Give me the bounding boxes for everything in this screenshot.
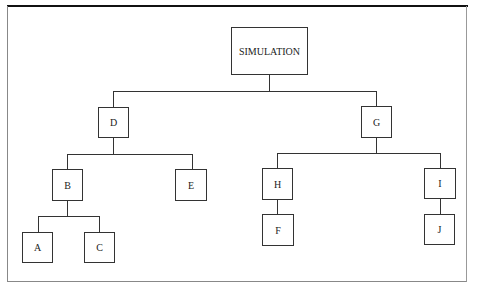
connector-to-a (38, 216, 39, 232)
connector-to-b (67, 154, 68, 169)
connector-to-c (99, 216, 100, 232)
connector-root-bar (113, 91, 377, 92)
node-a: A (22, 232, 53, 263)
connector-g-down (376, 138, 377, 153)
connector-g-bar (277, 153, 441, 154)
connector-h-to-f (277, 200, 278, 214)
connector-to-i (440, 153, 441, 168)
node-g: G (361, 106, 392, 138)
node-j: J (424, 214, 455, 245)
node-i: I (424, 168, 456, 199)
connector-to-h (277, 153, 278, 168)
connector-to-d (113, 91, 114, 107)
connector-d-bar (67, 154, 193, 155)
node-simulation: SIMULATION (231, 27, 308, 75)
node-b: B (52, 169, 83, 201)
connector-b-bar (38, 216, 100, 217)
node-e: E (175, 169, 207, 201)
connector-to-g (376, 91, 377, 106)
connector-i-to-j (440, 199, 441, 214)
connector-d-down (113, 138, 114, 154)
connector-b-down (67, 201, 68, 216)
node-f: F (262, 214, 294, 246)
node-c: C (84, 232, 115, 263)
node-h: H (262, 168, 293, 200)
node-d: D (98, 107, 129, 138)
connector-to-e (192, 154, 193, 169)
connector-root-down (269, 75, 270, 91)
